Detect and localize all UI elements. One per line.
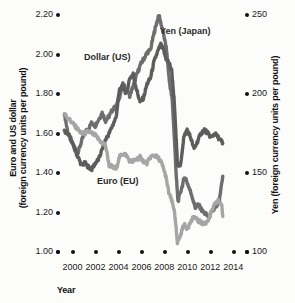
y-axis-left-tick-label: 2.20 [0,9,53,19]
plot-area [0,0,295,303]
y-axis-right-tick-label: 150 [252,167,267,177]
y-axis-left-title: Euro and US dollar (foreign currency uni… [8,58,28,218]
x-axis-tick-label: 2006 [131,262,151,272]
y-axis-right-tick-dot [245,171,249,175]
x-axis-tick-label: 2014 [223,262,243,272]
x-axis-tick-label: 2012 [200,262,220,272]
series-line-yen [64,16,222,218]
y-axis-right-tick-dot [245,13,249,17]
series-label-yen: Yen (Japan) [160,26,211,36]
y-axis-left-title-line1: Euro and US dollar [8,58,18,218]
y-axis-left-tick-dot [56,132,60,136]
x-axis-tick-label: 2008 [154,262,174,272]
y-axis-left-tick-dot [56,211,60,215]
y-axis-right-tick-label: 250 [252,9,267,19]
y-axis-left-tick-dot [56,92,60,96]
series-label-euro: Euro (EU) [97,176,139,186]
y-axis-left-title-line2: (foreign currency units per pound) [18,58,28,218]
y-axis-left-tick-dot [56,171,60,175]
x-axis-tick-label: 2004 [108,262,128,272]
origin-corner-dot-right [245,250,249,254]
x-axis-tick-label: 2002 [85,262,105,272]
x-axis-tick-label: 2000 [62,262,82,272]
y-axis-left-tick-dot [56,13,60,17]
y-axis-right-title: Yen (foreign currency units per pound) [270,50,280,220]
currency-exchange-rate-chart: 1.001.201.401.601.802.002.20100150200250… [0,0,295,303]
y-axis-left-tick-dot [56,53,60,57]
y-axis-right-tick-label: 100 [252,246,267,256]
origin-corner-dot-left [56,250,60,254]
y-axis-left-tick-label: 1.00 [0,246,53,256]
series-label-dollar: Dollar (US) [84,52,131,62]
x-axis-title: Year [57,285,75,295]
y-axis-right-tick-dot [245,92,249,96]
y-axis-right-tick-label: 200 [252,88,267,98]
x-axis-tick-label: 2010 [177,262,197,272]
y-axis-left-tick-label: 2.00 [0,49,53,59]
